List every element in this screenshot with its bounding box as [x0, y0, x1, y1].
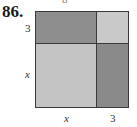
region-bottom-left	[36, 44, 97, 107]
problem-number: 86.	[2, 2, 23, 22]
left-label-x: x	[25, 68, 30, 80]
bottom-label-x: x	[64, 112, 69, 124]
cutoff-glyph: 8	[62, 0, 68, 5]
area-model-square	[35, 11, 129, 108]
region-top-left	[36, 12, 97, 44]
left-label-3: 3	[25, 22, 31, 34]
bottom-label-3: 3	[110, 112, 116, 124]
region-top-right	[97, 12, 128, 44]
region-bottom-right	[97, 44, 128, 107]
